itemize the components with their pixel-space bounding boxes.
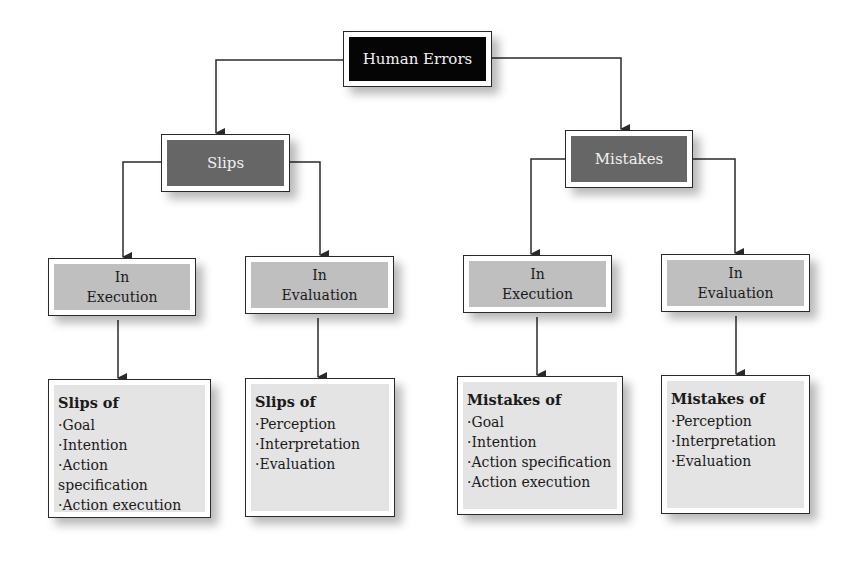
leaf-item: Action execution <box>467 472 590 492</box>
leaf-mistakes-execution: Mistakes of Goal Intention Action specif… <box>457 376 623 515</box>
leaf-item: Intention <box>58 435 127 455</box>
node-label: Slips <box>207 154 244 172</box>
leaf-item: Interpretation <box>671 431 776 451</box>
leaf-item: Goal <box>467 412 504 432</box>
node-mistakes: Mistakes <box>565 130 693 188</box>
node-human-errors: Human Errors <box>343 31 492 87</box>
leaf-slips-execution: Slips of Goal Intention Action specifica… <box>48 379 211 518</box>
leaf-title: Slips of <box>255 392 316 412</box>
node-label: Human Errors <box>363 50 473 68</box>
leaf-item: Action specification <box>467 452 611 472</box>
node-label-line1: In <box>530 264 545 284</box>
leaf-slips-evaluation: Slips of Perception Interpretation Evalu… <box>245 378 395 517</box>
node-label-line2: Execution <box>502 284 573 304</box>
node-label: Mistakes <box>595 150 664 168</box>
leaf-item: Interpretation <box>255 434 360 454</box>
leaf-mistakes-evaluation: Mistakes of Perception Interpretation Ev… <box>661 375 810 514</box>
leaf-item: Perception <box>671 411 752 431</box>
node-mistakes-in-evaluation: In Evaluation <box>661 254 810 312</box>
node-label-line2: Execution <box>87 287 158 307</box>
leaf-item: Evaluation <box>255 454 335 474</box>
leaf-item: Action execution <box>58 495 181 515</box>
node-label-line1: In <box>728 263 743 283</box>
leaf-item: Intention <box>467 432 536 452</box>
node-label-line1: In <box>312 265 327 285</box>
node-mistakes-in-execution: In Execution <box>463 255 612 313</box>
leaf-title: Slips of <box>58 393 119 413</box>
leaf-item: Perception <box>255 414 336 434</box>
node-slips: Slips <box>161 134 290 192</box>
leaf-title: Mistakes of <box>467 390 561 410</box>
leaf-item: Action specification <box>58 455 201 495</box>
leaf-item: Evaluation <box>671 451 751 471</box>
node-slips-in-execution: In Execution <box>48 258 196 316</box>
node-label-line1: In <box>115 267 130 287</box>
node-slips-in-evaluation: In Evaluation <box>245 256 394 314</box>
node-label-line2: Evaluation <box>698 283 774 303</box>
leaf-title: Mistakes of <box>671 389 765 409</box>
node-label-line2: Evaluation <box>282 285 358 305</box>
leaf-item: Goal <box>58 415 95 435</box>
